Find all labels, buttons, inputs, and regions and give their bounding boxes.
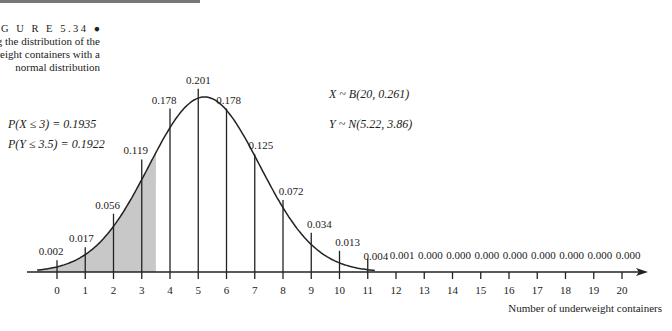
annotation-px: P(X ≤ 3) = 0.1935: [7, 117, 96, 131]
tick-label: 11: [362, 284, 373, 296]
distribution-chart: 01234567891011121314151617181920 0.0020.…: [0, 0, 672, 331]
value-label: 0.000: [531, 249, 556, 261]
tick-label: 18: [560, 284, 572, 296]
tick-label: 20: [617, 284, 629, 296]
value-label: 0.178: [152, 94, 177, 106]
value-label: 0.004: [363, 250, 388, 262]
tick-label: 12: [391, 284, 402, 296]
tick-label: 0: [54, 284, 60, 296]
tick-label: 8: [280, 284, 286, 296]
value-label: 0.000: [587, 249, 612, 261]
x-axis-label: Number of underweight containers: [508, 302, 662, 314]
value-label: 0.000: [559, 249, 584, 261]
tick-label: 6: [224, 284, 230, 296]
tick-label: 1: [83, 284, 89, 296]
annotation-xdist: X ~ B(20, 0.261): [328, 87, 409, 101]
tick-label: 4: [167, 284, 173, 296]
value-label: 0.000: [418, 249, 443, 261]
value-label: 0.119: [124, 144, 149, 156]
tick-label: 3: [139, 284, 145, 296]
tick-label: 10: [334, 284, 346, 296]
x-axis: 01234567891011121314151617181920: [27, 268, 648, 296]
value-label: 0.125: [248, 139, 273, 151]
tick-label: 19: [588, 284, 600, 296]
annotation-py: P(Y ≤ 3.5) = 0.1922: [7, 137, 105, 151]
tick-label: 9: [309, 284, 315, 296]
tick-label: 13: [419, 284, 431, 296]
value-label: 0.017: [69, 232, 94, 244]
value-label: 0.178: [216, 94, 241, 106]
value-label: 0.000: [503, 249, 528, 261]
value-label: 0.201: [186, 74, 211, 86]
value-label: 0.000: [616, 249, 641, 261]
tick-label: 17: [532, 284, 544, 296]
tick-label: 15: [475, 284, 487, 296]
value-label: 0.002: [39, 245, 64, 257]
tick-label: 16: [504, 284, 516, 296]
tick-label: 5: [196, 284, 202, 296]
tick-label: 14: [447, 284, 459, 296]
value-label: 0.013: [335, 236, 360, 248]
tick-label: 7: [252, 284, 258, 296]
value-label: 0.056: [95, 199, 120, 211]
value-label: 0.000: [474, 249, 499, 261]
tick-label: 2: [111, 284, 117, 296]
value-label: 0.000: [446, 249, 471, 261]
value-label: 0.072: [279, 185, 304, 197]
value-label: 0.034: [307, 218, 332, 230]
value-label: 0.001: [390, 249, 415, 261]
annotation-ydist: Y ~ N(5.22, 3.86): [329, 117, 412, 131]
